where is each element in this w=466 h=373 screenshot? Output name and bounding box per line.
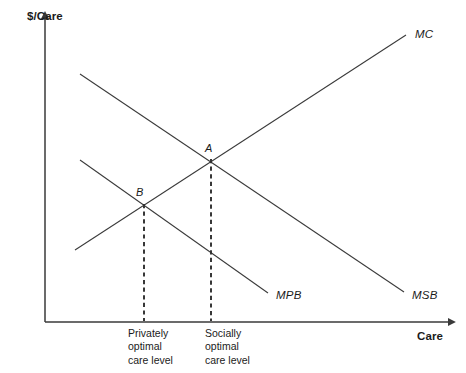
curve-label-msb: MSB xyxy=(412,289,438,303)
curve-label-mpb: MPB xyxy=(276,289,302,303)
x-axis-title: Care xyxy=(417,330,443,344)
externality-diagram: $/Care Care MC MSB MPB A B Privately opt… xyxy=(0,0,466,373)
curve-mpb xyxy=(80,160,268,293)
point-label-a: A xyxy=(205,142,212,155)
diagram-canvas xyxy=(0,0,466,373)
curve-mc xyxy=(75,35,406,250)
y-axis-title: $/Care xyxy=(27,10,63,24)
axis-caption-socially-optimal: Socially optimal care level xyxy=(205,327,250,367)
point-label-b: B xyxy=(136,186,143,199)
curve-msb xyxy=(80,74,404,292)
axis-caption-privately-optimal: Privately optimal care level xyxy=(128,327,173,367)
curve-label-mc: MC xyxy=(415,28,433,42)
